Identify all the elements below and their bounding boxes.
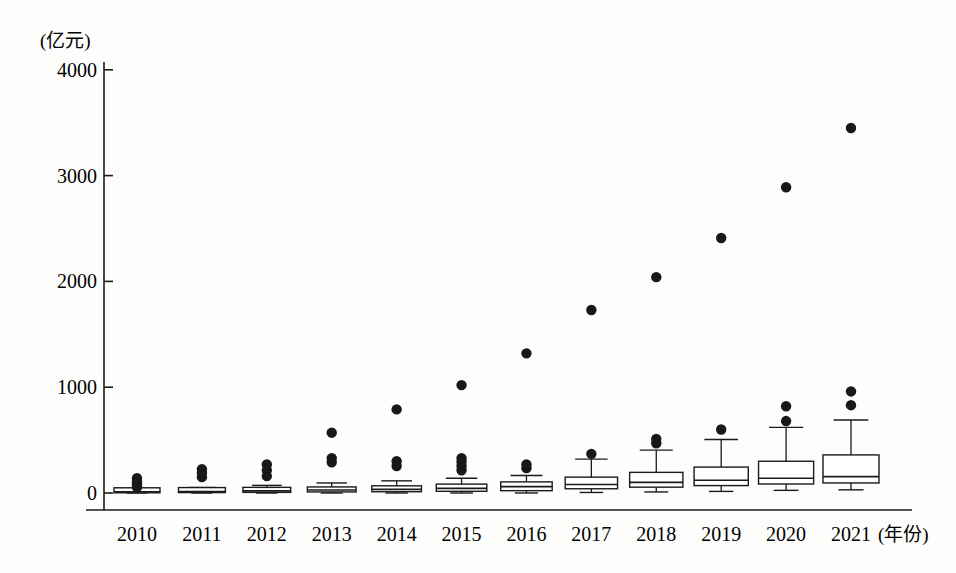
x-tick-label: 2012 [247, 523, 287, 545]
outlier-point [651, 434, 661, 444]
axis-unit-labels: (亿元) [40, 30, 91, 52]
outlier-point [521, 348, 531, 358]
x-tick-label: 2017 [571, 523, 611, 545]
outlier-point [262, 459, 272, 469]
x-tick-label: 2020 [766, 523, 806, 545]
boxplot-box [243, 459, 291, 493]
outlier-point [716, 233, 726, 243]
x-tick-label: 2014 [377, 523, 417, 545]
x-tick-label: 2010 [117, 523, 157, 545]
outlier-point [327, 453, 337, 463]
outlier-point [781, 182, 791, 192]
boxplot-box [436, 380, 487, 493]
chart-canvas: (亿元) 01000200030004000 20102011201220132… [0, 0, 956, 573]
outlier-point [716, 424, 726, 434]
boxplot-box [372, 404, 422, 493]
outlier-point [391, 456, 401, 466]
outlier-point [586, 305, 596, 315]
boxplot-box [630, 272, 683, 492]
x-tick-label: 2016 [506, 523, 546, 545]
boxplot-box [307, 427, 356, 493]
outlier-point [781, 401, 791, 411]
x-axis-ticks: 2010201120122013201420152016201720182019… [117, 523, 871, 545]
boxplot-box [178, 464, 225, 493]
box-iqr-rect [630, 472, 683, 487]
box-iqr-rect [823, 455, 879, 483]
boxplot-box [565, 305, 617, 493]
box-iqr-rect [694, 467, 748, 486]
x-axis-unit-label: (年份) [878, 524, 929, 546]
outlier-point [132, 473, 142, 483]
boxplot-box [114, 473, 160, 493]
outlier-point [846, 386, 856, 396]
outlier-point [846, 400, 856, 410]
boxplot-chart-figure: (亿元) 01000200030004000 20102011201220132… [0, 0, 956, 573]
y-axis-unit-label: (亿元) [40, 30, 91, 52]
y-tick-label: 4000 [57, 59, 97, 81]
box-iqr-rect [759, 461, 814, 484]
x-tick-label: 2018 [636, 523, 676, 545]
outlier-point [391, 404, 401, 414]
outlier-point [456, 380, 466, 390]
outlier-point [846, 123, 856, 133]
axis-lines [86, 62, 912, 510]
boxplot-series [114, 123, 879, 493]
y-tick-label: 0 [87, 482, 97, 504]
boxplot-box [694, 233, 748, 492]
x-tick-label: 2019 [701, 523, 741, 545]
box-iqr-rect [565, 477, 617, 489]
x-tick-label: 2011 [182, 523, 221, 545]
y-tick-label: 1000 [57, 376, 97, 398]
outlier-point [651, 272, 661, 282]
outlier-point [197, 464, 207, 474]
x-tick-label: 2021 [831, 523, 871, 545]
x-tick-label: 2015 [442, 523, 482, 545]
outlier-point [781, 416, 791, 426]
y-tick-label: 3000 [57, 165, 97, 187]
y-tick-label: 2000 [57, 270, 97, 292]
boxplot-box [759, 182, 814, 490]
outlier-point [521, 459, 531, 469]
outlier-point [586, 449, 596, 459]
x-tick-label: 2013 [312, 523, 352, 545]
boxplot-box [501, 348, 552, 493]
outlier-point [327, 427, 337, 437]
boxplot-box [823, 123, 879, 490]
outlier-point [456, 453, 466, 463]
